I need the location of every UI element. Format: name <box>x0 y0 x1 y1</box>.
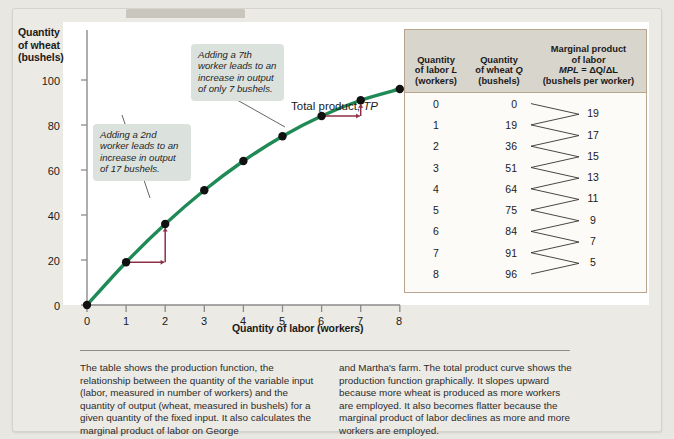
figure-tab <box>126 9 245 18</box>
table-row: 684 <box>405 221 646 242</box>
col-mpl-line4: (bushels per worker) <box>531 76 646 87</box>
total-product-curve <box>87 89 400 305</box>
col-wheat-line2-text: of wheat <box>475 65 515 75</box>
data-point-4 <box>239 157 247 165</box>
step-arrowhead-horizontal-1 <box>356 113 360 118</box>
figure-caption: The table shows the production function,… <box>80 362 576 438</box>
col-labor-symbol: L <box>451 65 457 75</box>
col-wheat-line3: (bushels) <box>467 76 531 87</box>
table-body: 00119236351464575684791896 1917151311975 <box>405 93 646 293</box>
column-header-wheat: Quantity of wheat Q (bushels) <box>467 55 531 92</box>
step-arrowhead-horizontal-0 <box>161 260 165 265</box>
mpl-value: 13 <box>582 171 604 183</box>
col-labor-line3: (workers) <box>405 76 467 87</box>
cell-labor: 1 <box>405 119 467 131</box>
x-tick-1: 1 <box>119 315 133 327</box>
x-axis-ticks <box>87 305 400 312</box>
table-row: 896 <box>405 263 646 284</box>
callout-second-worker: Adding a 2nd worker leads to an increase… <box>93 124 191 181</box>
col-wheat-line1: Quantity <box>467 55 531 66</box>
y-tick-60: 60 <box>32 165 60 177</box>
col-labor-line2: of labor L <box>405 65 467 76</box>
col-labor-line2-text: of labor <box>415 65 452 75</box>
table-row: 236 <box>405 136 646 157</box>
table-row: 119 <box>405 114 646 135</box>
x-tick-2: 2 <box>158 315 172 327</box>
cell-labor: 4 <box>405 183 467 195</box>
x-tick-3: 3 <box>197 315 211 327</box>
mpl-value: 5 <box>582 256 604 268</box>
table-rows-host: 00119236351464575684791896 <box>405 93 646 285</box>
x-tick-7: 7 <box>353 315 367 327</box>
y-tick-80: 80 <box>32 120 60 132</box>
mpl-value: 9 <box>582 214 604 226</box>
total-product-label-abbrev: TP <box>363 100 378 112</box>
mpl-value: 7 <box>582 235 604 247</box>
caption-divider <box>80 350 570 351</box>
col-mpl-line1: Marginal product <box>531 44 646 55</box>
y-tick-0: 0 <box>32 300 60 312</box>
cell-wheat: 64 <box>467 183 531 195</box>
y-tick-100: 100 <box>32 75 60 87</box>
y-axis-ticks <box>81 80 87 305</box>
cell-wheat: 96 <box>467 268 531 280</box>
cell-labor: 3 <box>405 162 467 174</box>
x-tick-5: 5 <box>275 315 289 327</box>
table-row: 351 <box>405 157 646 178</box>
data-point-6 <box>317 112 325 120</box>
production-function-table: Quantity of labor L (workers) Quantity o… <box>404 29 647 293</box>
cell-wheat: 36 <box>467 140 531 152</box>
caption-column-right: and Martha's farm. The total product cur… <box>339 362 576 438</box>
column-header-mpl: Marginal product of labor MPL = ΔQ/ΔL (b… <box>531 44 646 92</box>
data-point-5 <box>278 132 286 140</box>
col-labor-line1: Quantity <box>405 55 467 66</box>
cell-wheat: 19 <box>467 119 531 131</box>
col-mpl-line3: MPL = ΔQ/ΔL <box>531 65 646 76</box>
mpl-value: 15 <box>582 150 604 162</box>
data-point-group <box>83 85 404 309</box>
y-tick-40: 40 <box>32 210 60 222</box>
cell-wheat: 91 <box>467 247 531 259</box>
x-tick-8: 8 <box>392 315 406 327</box>
data-point-3 <box>200 186 208 194</box>
cell-labor: 8 <box>405 268 467 280</box>
col-mpl-abbrev: MPL <box>559 65 579 75</box>
x-tick-0: 0 <box>80 315 94 327</box>
cell-wheat: 75 <box>467 204 531 216</box>
cell-wheat: 0 <box>467 98 531 110</box>
cell-labor: 6 <box>405 225 467 237</box>
total-product-label: Total product, TP <box>291 100 378 112</box>
cell-wheat: 84 <box>467 225 531 237</box>
cell-wheat: 51 <box>467 162 531 174</box>
col-wheat-symbol: Q <box>516 65 523 75</box>
table-row: 00 <box>405 93 646 114</box>
data-point-0 <box>83 301 91 309</box>
cell-labor: 0 <box>405 98 467 110</box>
cell-labor: 2 <box>405 140 467 152</box>
callout-seventh-worker: Adding a 7th worker leads to an increase… <box>191 44 284 101</box>
table-header-row: Quantity of labor L (workers) Quantity o… <box>405 30 646 93</box>
table-row: 791 <box>405 242 646 263</box>
table-row: 575 <box>405 199 646 220</box>
mpl-value: 19 <box>582 107 604 119</box>
mpl-value: 11 <box>582 192 604 204</box>
mpl-value: 17 <box>582 129 604 141</box>
step-arrowhead-vertical-0 <box>163 228 168 232</box>
caption-column-left: The table shows the production function,… <box>80 362 317 438</box>
col-mpl-formula: = ΔQ/ΔL <box>579 65 618 75</box>
cell-labor: 7 <box>405 247 467 259</box>
cell-labor: 5 <box>405 204 467 216</box>
col-wheat-line2: of wheat Q <box>467 65 531 76</box>
y-tick-20: 20 <box>32 255 60 267</box>
data-point-2 <box>161 220 169 228</box>
data-point-8 <box>396 85 404 93</box>
x-tick-4: 4 <box>236 315 250 327</box>
table-row: 464 <box>405 178 646 199</box>
total-product-label-text: Total product, <box>291 100 363 112</box>
data-point-1 <box>122 258 130 266</box>
column-header-labor: Quantity of labor L (workers) <box>405 55 467 92</box>
col-mpl-line2: of labor <box>531 55 646 66</box>
x-tick-6: 6 <box>314 315 328 327</box>
